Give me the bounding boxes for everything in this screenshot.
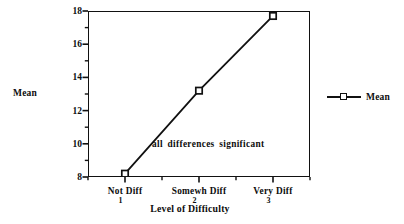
- chart-legend: Mean: [327, 92, 390, 102]
- legend-label-mean: Mean: [366, 92, 390, 102]
- x-tick-category: Very Diff: [253, 186, 292, 196]
- legend-square-marker-icon: [340, 93, 347, 100]
- chart-figure: Mean 81012141618 Not Diff1Somewh Diff2Ve…: [0, 0, 404, 224]
- x-axis-tick-labels: Not Diff1Somewh Diff2Very Diff3: [0, 0, 404, 224]
- x-tick-label-group: Very Diff3: [253, 180, 292, 207]
- x-tick-category: Somewh Diff: [172, 186, 227, 196]
- x-tick-number: 3: [244, 196, 292, 205]
- legend-sample-mean: [327, 92, 361, 102]
- plot-annotation: all differences significant: [152, 139, 264, 149]
- x-tick-number: 1: [99, 196, 143, 205]
- x-tick-category: Not Diff: [108, 186, 143, 196]
- x-tick-label-group: Not Diff1: [108, 180, 143, 207]
- x-axis-title: Level of Difficulty: [150, 203, 229, 214]
